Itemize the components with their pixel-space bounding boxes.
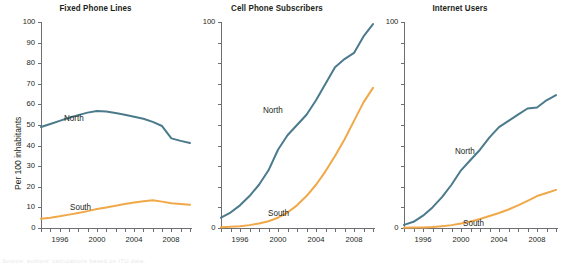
figure-footnote: Source: authors' calculations based on I… (2, 258, 146, 264)
chart-panel-3: Internet Users01001996200020042008NorthS… (0, 0, 574, 250)
chart-figure: Fixed Phone Lines01020304050607080901001… (0, 0, 574, 264)
series-line-north (404, 95, 556, 225)
series-label-north: North (455, 146, 475, 156)
series-label-south: South (463, 218, 484, 228)
series-lines (0, 0, 574, 264)
